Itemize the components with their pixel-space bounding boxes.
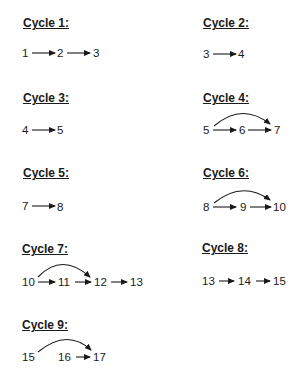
node: 12 bbox=[94, 276, 107, 288]
node: 13 bbox=[202, 275, 215, 287]
node: 6 bbox=[239, 124, 245, 136]
node: 1 bbox=[22, 47, 28, 59]
node: 10 bbox=[273, 201, 286, 213]
node: 13 bbox=[130, 276, 143, 288]
node: 9 bbox=[240, 201, 246, 213]
node: 10 bbox=[22, 276, 35, 288]
node: 15 bbox=[22, 351, 35, 363]
node: 2 bbox=[57, 47, 63, 59]
node: 7 bbox=[274, 124, 280, 136]
node: 4 bbox=[238, 48, 245, 60]
node: 5 bbox=[57, 124, 63, 136]
node: 5 bbox=[203, 124, 209, 136]
node: 16 bbox=[58, 351, 71, 363]
node: 17 bbox=[93, 351, 106, 363]
node: 8 bbox=[57, 201, 63, 213]
node: 11 bbox=[58, 276, 70, 288]
node: 7 bbox=[22, 200, 28, 212]
node: 8 bbox=[203, 201, 209, 213]
node: 3 bbox=[93, 47, 99, 59]
node: 4 bbox=[22, 124, 29, 136]
node: 15 bbox=[273, 275, 286, 287]
cycle-diagrams: 1 2 3 3 4 4 5 5 6 7 7 8 8 9 10 10 11 12 … bbox=[0, 0, 302, 377]
node: 3 bbox=[203, 48, 209, 60]
node: 14 bbox=[238, 275, 251, 287]
